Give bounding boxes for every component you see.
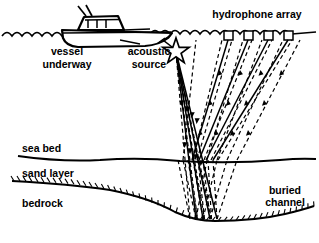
bedrock-label: bedrock <box>22 197 63 209</box>
sea-bed-label: sea bed <box>22 142 61 154</box>
buried-channel-label-line1: buried <box>269 184 301 196</box>
hydrophone-array-label: hydrophone array <box>212 8 301 20</box>
arrowhead-icon <box>198 70 285 136</box>
acoustic-source-label-line2: source <box>132 58 167 70</box>
vessel-label-line2: underway <box>42 58 91 70</box>
sand-layer-label: sand layer <box>22 167 74 179</box>
acoustic-source-label-line1: acoustic <box>128 45 171 57</box>
buried-channel-label-line2: channel <box>265 196 305 208</box>
upgoing-deep-raypaths <box>183 40 300 160</box>
seismic-survey-diagram: vessel underway acoustic source hydropho… <box>0 0 319 243</box>
downgoing-raypaths <box>176 52 217 219</box>
sea-bed-line <box>18 156 316 162</box>
vessel-label-line1: vessel <box>51 45 83 57</box>
boat-icon <box>62 5 172 47</box>
upgoing-raypaths-seabed <box>192 40 292 160</box>
